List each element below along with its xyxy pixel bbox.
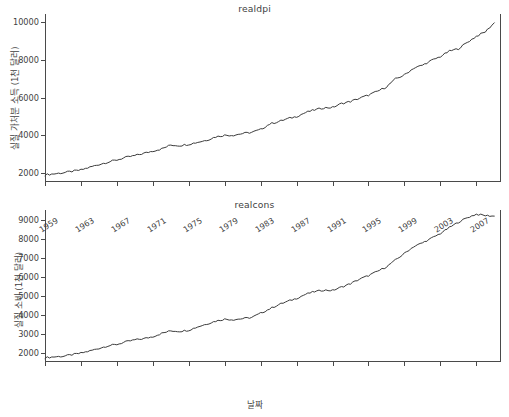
plot-area-realdpi: 200040006000800010000 xyxy=(45,14,501,182)
x-tick-mark xyxy=(261,362,262,366)
x-tick-mark xyxy=(368,182,369,186)
x-tick-mark xyxy=(153,362,154,366)
x-tick-mark xyxy=(225,362,226,366)
x-tick-mark xyxy=(117,362,118,366)
x-tick-mark xyxy=(333,182,334,186)
y-tick-label: 10000 xyxy=(13,17,39,27)
series-line-realcons xyxy=(45,210,501,362)
x-tick-mark xyxy=(333,362,334,366)
y-tick-label: 2000 xyxy=(18,168,39,178)
x-tick-mark xyxy=(476,362,477,366)
chart-title-realcons: realcons xyxy=(0,199,509,210)
x-tick-mark xyxy=(117,182,118,186)
x-axis-label: 날짜 xyxy=(0,398,509,410)
y-tick-label: 8000 xyxy=(18,234,39,244)
x-tick-mark xyxy=(189,362,190,366)
figure-canvas: realdpi 실질 가처분 소득 (1천 달러) 20004000600080… xyxy=(0,0,509,417)
y-tick-label: 6000 xyxy=(18,93,39,103)
x-tick-mark xyxy=(45,182,46,186)
x-tick-mark xyxy=(45,362,46,366)
x-tick-mark xyxy=(81,362,82,366)
panel-realdpi: realdpi 실질 가처분 소득 (1천 달러) 20004000600080… xyxy=(0,0,509,196)
y-tick-label: 9000 xyxy=(18,215,39,225)
y-tick-label: 8000 xyxy=(18,55,39,65)
x-tick-mark xyxy=(189,182,190,186)
plot-area-realcons: 20003000400050006000700080009000 1959196… xyxy=(45,210,501,362)
x-tick-mark xyxy=(404,362,405,366)
y-tick-label: 5000 xyxy=(18,291,39,301)
x-tick-mark xyxy=(261,182,262,186)
y-tick-label: 4000 xyxy=(18,130,39,140)
y-tick-label: 7000 xyxy=(18,253,39,263)
x-tick-mark xyxy=(476,182,477,186)
y-tick-label: 2000 xyxy=(18,348,39,358)
series-line-realdpi xyxy=(45,14,501,182)
x-tick-mark xyxy=(81,182,82,186)
y-tick-label: 3000 xyxy=(18,329,39,339)
chart-title-realdpi: realdpi xyxy=(0,3,509,14)
y-tick-label: 4000 xyxy=(18,310,39,320)
x-tick-mark xyxy=(297,182,298,186)
x-tick-mark xyxy=(297,362,298,366)
y-tick-label: 6000 xyxy=(18,272,39,282)
x-tick-mark xyxy=(368,362,369,366)
x-tick-mark xyxy=(440,182,441,186)
x-tick-mark xyxy=(404,182,405,186)
panel-realcons: realcons 실질 소비 (1천 달러) 20003000400050006… xyxy=(0,196,509,417)
x-tick-mark xyxy=(153,182,154,186)
x-tick-mark xyxy=(440,362,441,366)
x-tick-mark xyxy=(225,182,226,186)
